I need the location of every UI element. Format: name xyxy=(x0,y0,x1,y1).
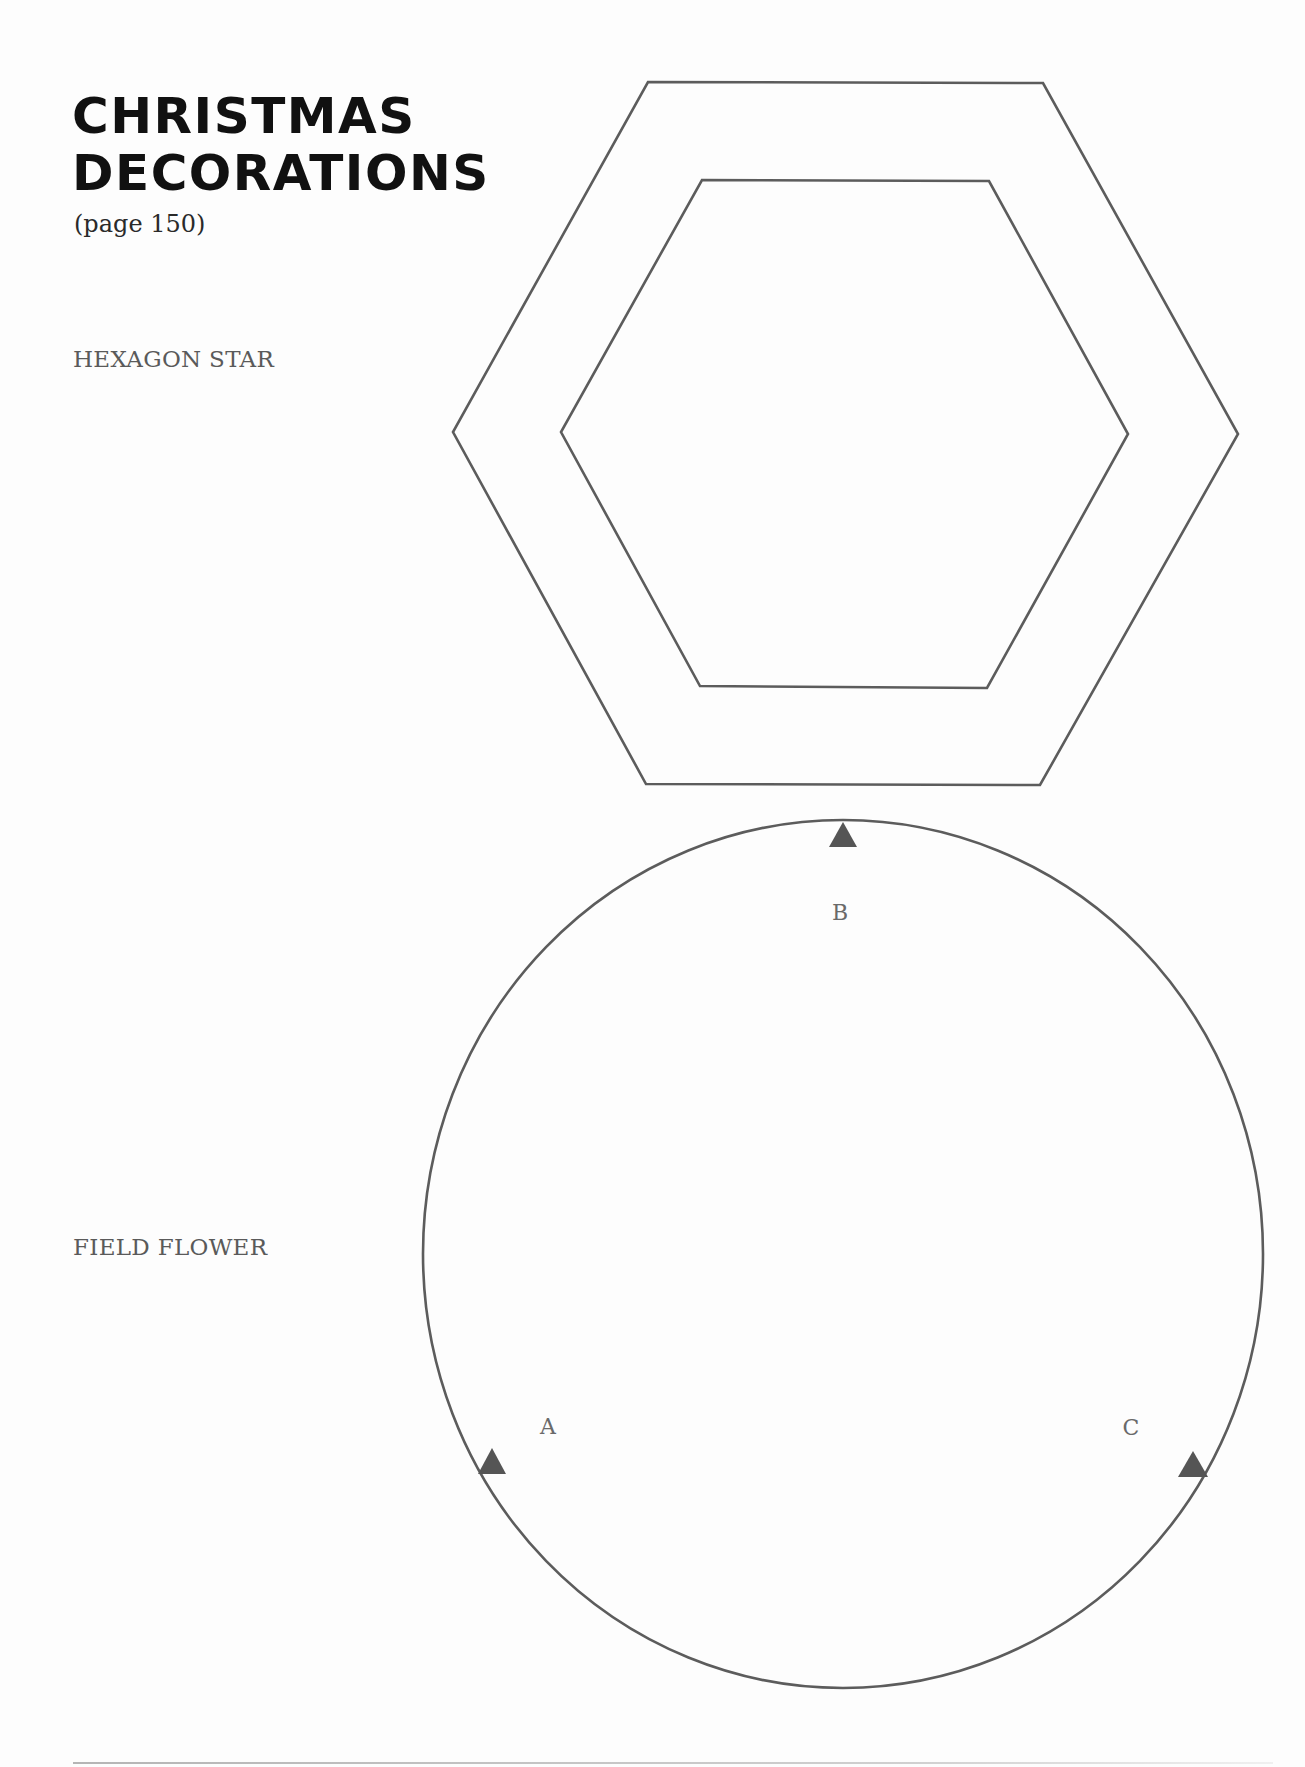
marker-c-label: C xyxy=(1123,1415,1140,1440)
marker-c-triangle-icon xyxy=(1178,1451,1208,1477)
template-page: CHRISTMAS DECORATIONS (page 150) HEXAGON… xyxy=(0,0,1305,1767)
outer-hexagon-outline xyxy=(453,82,1238,785)
footer-divider xyxy=(73,1762,1273,1764)
marker-a-label: A xyxy=(539,1414,557,1439)
marker-b-label: B xyxy=(832,900,848,925)
inner-hexagon-outline xyxy=(561,180,1128,688)
field-flower-template: B A C xyxy=(423,820,1263,1688)
marker-a-triangle-icon xyxy=(478,1448,506,1474)
templates-drawing: B A C xyxy=(0,0,1305,1767)
flower-circle-outline xyxy=(423,820,1263,1688)
hexagon-star-template xyxy=(453,82,1238,785)
marker-b-triangle-icon xyxy=(829,822,857,847)
